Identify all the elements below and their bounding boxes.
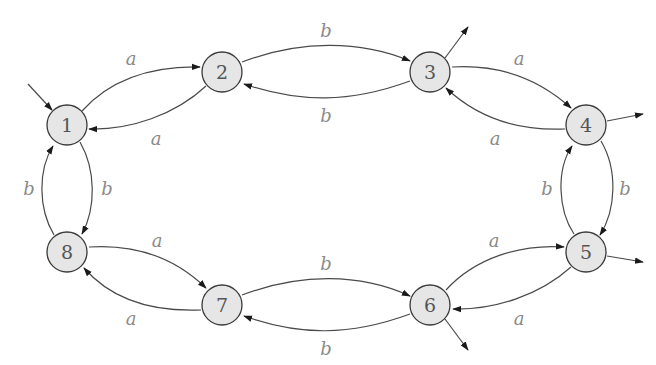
edge-7-to-6 (242, 279, 410, 296)
edge-label-4-5: b (619, 178, 631, 199)
edge-label-1-8: b (101, 178, 113, 199)
edge-label-8-1: b (23, 178, 35, 199)
state-4: 4 (566, 105, 606, 145)
initial-arrow-icon (28, 84, 52, 110)
edge-label-2-3: b (320, 20, 332, 41)
state-label: 6 (424, 294, 436, 316)
edge-3-to-4 (452, 67, 571, 108)
state-2: 2 (202, 52, 242, 92)
final-arrow-icon-3 (445, 27, 468, 58)
edge-label-3-2: b (320, 105, 332, 126)
edge-label-4-3: a (490, 128, 501, 149)
state-6: 6 (410, 285, 450, 325)
edge-8-to-1 (42, 146, 54, 235)
final-arrow-icon-6 (445, 319, 468, 350)
edge-6-to-5 (446, 247, 564, 290)
edge-label-5-4: b (541, 178, 553, 199)
state-5: 5 (566, 232, 606, 272)
state-1: 1 (47, 105, 87, 145)
state-7: 7 (202, 285, 242, 325)
edge-5-to-6 (453, 267, 571, 309)
edge-6-to-7 (244, 314, 410, 331)
edge-label-6-7: b (320, 338, 332, 359)
edge-label-8-7: a (152, 230, 163, 251)
state-8: 8 (47, 232, 87, 272)
state-label: 4 (580, 114, 592, 136)
state-label: 7 (216, 294, 228, 316)
final-arrow-icon-5 (607, 256, 643, 262)
automaton-diagram: a a b b a a b b a a b b a a b b 1 2 3 4 … (0, 0, 656, 365)
edge-7-to-8 (84, 268, 201, 310)
edge-2-to-1 (89, 86, 206, 129)
edge-label-5-6: a (514, 308, 525, 329)
edge-4-to-5 (600, 141, 613, 235)
edge-label-7-6: b (320, 253, 332, 274)
state-label: 5 (580, 241, 592, 263)
edge-label-1-2: a (126, 48, 137, 69)
edge-label-7-8: a (126, 308, 137, 329)
state-label: 3 (424, 61, 436, 83)
edge-8-to-7 (89, 247, 206, 288)
edge-4-to-3 (446, 88, 565, 129)
edge-label-6-5: a (489, 230, 500, 251)
final-arrow-icon-4 (607, 114, 643, 121)
edge-label-3-4: a (514, 48, 525, 69)
edge-1-to-8 (80, 142, 92, 234)
state-label: 2 (216, 61, 228, 83)
state-label: 1 (61, 114, 73, 136)
edge-2-to-3 (242, 45, 410, 62)
state-label: 8 (61, 241, 73, 263)
edge-5-to-4 (561, 146, 574, 234)
edge-3-to-2 (244, 81, 410, 98)
state-3: 3 (410, 52, 450, 92)
edge-label-2-1: a (151, 128, 162, 149)
